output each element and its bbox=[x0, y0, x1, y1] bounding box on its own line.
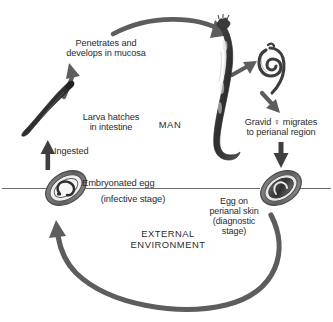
label-gravid-female-migrates: Gravid ♀ migrates to perianal region bbox=[232, 117, 330, 138]
label-infective-stage: (infective stage) bbox=[78, 194, 188, 205]
label-larva-hatches-intestine: Larva hatches in intestine bbox=[63, 112, 159, 133]
arrow-ingested bbox=[41, 140, 55, 170]
organism-gravid-female bbox=[259, 44, 284, 93]
label-man: MAN bbox=[150, 120, 190, 131]
label-embryonated-egg: Embryonated egg bbox=[82, 178, 192, 189]
label-ingested: Ingested bbox=[54, 146, 114, 156]
arrow-to-perianal-egg bbox=[274, 142, 289, 168]
label-penetrates-develops-mucosa: Penetrates and develops in mucosa bbox=[42, 38, 170, 59]
arrow-top-curve bbox=[113, 19, 230, 38]
arrow-adult-to-gravid bbox=[232, 61, 257, 75]
label-external-environment: EXTERNAL ENVIRONMENT bbox=[120, 229, 216, 250]
arrow-gravid-down bbox=[262, 93, 280, 113]
life-cycle-diagram: Penetrates and develops in mucosa Larva … bbox=[0, 0, 333, 322]
